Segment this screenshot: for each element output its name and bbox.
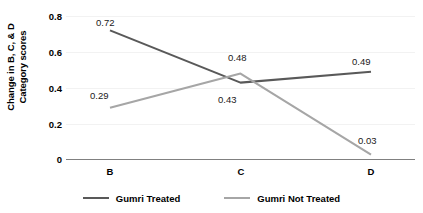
data-label-treated-c: 0.43 (218, 94, 237, 105)
y-tick-label-0.8: 0.8 (36, 12, 62, 22)
data-label-treated-d: 0.49 (352, 56, 371, 67)
x-axis-tick-labels: B C D (66, 166, 415, 180)
y-tick-label-0.4: 0.4 (36, 84, 62, 94)
x-tick-label-d: D (351, 166, 391, 177)
y-tick-label-0: 0 (36, 155, 62, 165)
legend-label-gumri-treated: Gumri Treated (116, 193, 180, 204)
legend-item-gumri-treated[interactable]: Gumri Treated (83, 193, 180, 204)
line-chart: Change in B, C, & D Category scores 0.8 … (0, 0, 423, 213)
data-label-untreated-c: 0.48 (228, 52, 247, 63)
data-label-untreated-b: 0.29 (90, 90, 109, 101)
y-axis-title-line1: Change in B, C, & D (5, 2, 17, 132)
data-label-treated-b: 0.72 (96, 17, 115, 28)
y-axis-title-line2: Category scores (17, 2, 29, 132)
x-tick-label-c: C (221, 166, 261, 177)
legend-line-swatch-icon (224, 197, 250, 199)
series-line-gumri-not-treated (110, 74, 371, 155)
chart-legend: Gumri Treated Gumri Not Treated (0, 190, 423, 206)
legend-label-gumri-not-treated: Gumri Not Treated (257, 193, 340, 204)
y-tick-label-0.2: 0.2 (36, 120, 62, 130)
legend-line-swatch-icon (83, 197, 109, 199)
y-tick-label-0.6: 0.6 (36, 48, 62, 58)
data-label-untreated-d: 0.03 (358, 135, 377, 146)
x-axis-line (66, 159, 415, 160)
x-tick-label-b: B (90, 166, 130, 177)
y-axis-tick-labels: 0.8 0.6 0.4 0.2 0 (30, 0, 62, 213)
legend-item-gumri-not-treated[interactable]: Gumri Not Treated (224, 193, 340, 204)
